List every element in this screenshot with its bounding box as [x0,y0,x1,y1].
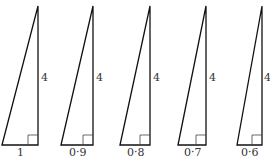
right-angle-marker [252,135,262,145]
right-angle-marker [28,135,38,145]
base-label-2: 0·9 [69,147,87,158]
base-label-5: 0·6 [241,147,259,158]
triangle-5 [237,6,262,145]
height-label-3: 4 [153,72,160,83]
triangle-1 [2,6,38,145]
triangle-2 [61,6,93,145]
base-label-1: 1 [17,147,24,158]
base-label-3: 0·8 [127,147,145,158]
height-label-5: 4 [264,72,270,83]
right-angle-marker [83,135,93,145]
right-angle-marker [196,135,206,145]
triangle-4 [178,6,206,145]
height-label-4: 4 [209,72,216,83]
height-label-2: 4 [96,72,103,83]
right-angle-marker [140,135,150,145]
triangle-3 [120,6,150,145]
height-label-1: 4 [41,72,48,83]
base-label-4: 0·7 [184,147,202,158]
